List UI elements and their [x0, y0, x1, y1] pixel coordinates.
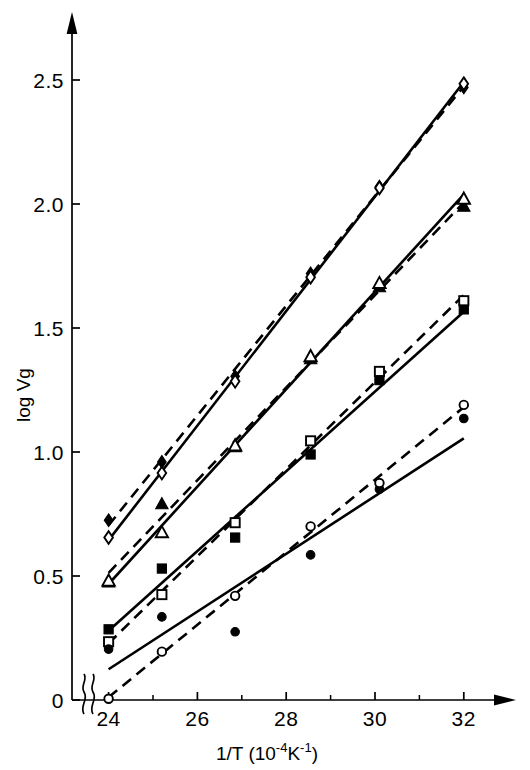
y-tick-label: 0 — [52, 689, 64, 712]
data-point-circle-open — [460, 401, 469, 410]
data-point-circle-open — [306, 522, 315, 531]
data-point-square-open — [375, 367, 384, 376]
data-point-square-filled — [104, 625, 113, 634]
data-point-square-filled — [157, 564, 166, 573]
x-tick-label: 24 — [96, 707, 120, 730]
data-point-circle-filled — [306, 551, 315, 560]
data-point-square-open — [157, 590, 166, 599]
data-point-square-open — [459, 296, 468, 305]
data-point-square-open — [231, 518, 240, 527]
data-point-circle-open — [375, 479, 384, 488]
x-axis-title-mid: K — [287, 743, 300, 764]
data-point-square-open — [306, 436, 315, 445]
y-tick-label: 2.0 — [33, 193, 64, 216]
data-point-square-filled — [306, 450, 315, 459]
y-tick-label: 2.5 — [33, 69, 64, 92]
y-tick-label: 1.0 — [33, 441, 64, 464]
x-tick-label: 26 — [185, 707, 209, 730]
x-axis-title-main: 1/T (10 — [216, 743, 276, 764]
x-tick-label: 30 — [363, 707, 387, 730]
x-axis-title-end: ) — [312, 743, 318, 764]
data-point-circle-filled — [460, 414, 469, 423]
data-point-circle-open — [158, 647, 167, 656]
data-point-circle-filled — [158, 613, 167, 622]
data-point-circle-filled — [231, 628, 240, 637]
x-tick-label: 32 — [452, 707, 476, 730]
data-point-circle-open — [104, 694, 113, 703]
chart-figure: 0 0.5 1.0 1.5 2.0 2.5 log Vg 24 26 28 30… — [0, 0, 530, 770]
x-axis-title-exponent-2: -1 — [300, 740, 312, 755]
vant-hoff-plot: 0 0.5 1.0 1.5 2.0 2.5 log Vg 24 26 28 30… — [0, 0, 530, 770]
data-point-circle-filled — [104, 645, 113, 654]
y-tick-label: 0.5 — [33, 565, 64, 588]
data-point-square-filled — [231, 533, 240, 542]
x-axis-title-exponent-1: -4 — [276, 740, 288, 755]
data-point-circle-open — [231, 592, 240, 601]
plot-background — [0, 0, 530, 770]
x-tick-label: 28 — [274, 707, 298, 730]
y-tick-label: 1.5 — [33, 317, 64, 340]
y-axis-title: log Vg — [13, 368, 34, 422]
